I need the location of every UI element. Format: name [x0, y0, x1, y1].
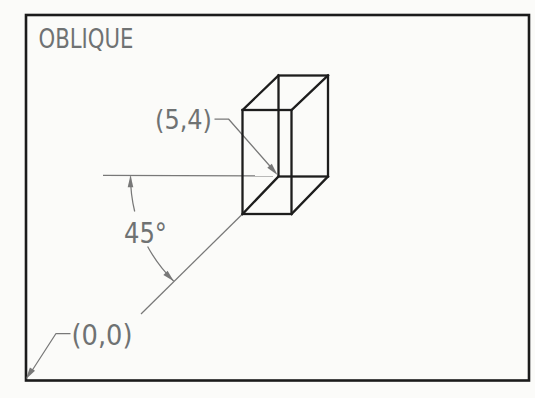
point-coordinates-label: (5,4) [155, 104, 212, 135]
oblique-projection-drawing: OBLIQUE (5,4) 45° (0,0) [0, 0, 535, 398]
oblique-box [243, 76, 329, 215]
angle-value-label: 45° [124, 216, 167, 250]
horizontal-reference-line [103, 175, 273, 176]
box-back-face [279, 76, 329, 177]
box-edge-top-left [243, 76, 279, 111]
angle-arc-upper-arrowhead [128, 175, 134, 187]
arrowheads [26, 164, 278, 379]
origin-label-leader [30, 334, 71, 375]
drawing-title: OBLIQUE [39, 23, 134, 54]
box-edge-bottom-left [243, 177, 279, 215]
box-edge-bottom-right [292, 177, 329, 215]
origin-coordinates-label: (0,0) [72, 319, 133, 352]
box-edge-top-right [292, 76, 329, 111]
drawing-canvas: OBLIQUE (5,4) 45° (0,0) [0, 0, 535, 398]
